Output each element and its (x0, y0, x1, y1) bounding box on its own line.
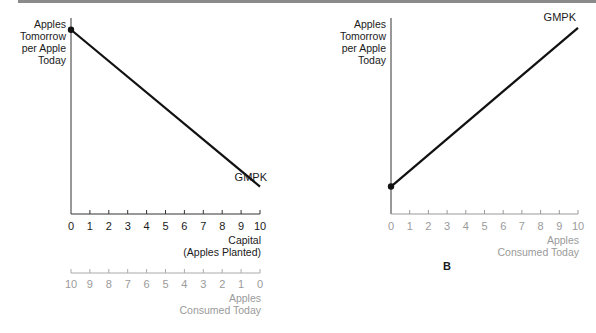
gmpk-label: GMPK (235, 171, 268, 183)
secondary-x-axis-label: Apples (229, 292, 261, 304)
secondary-x-tick-label: 7 (125, 278, 131, 290)
secondary-x-tick-label: 10 (65, 278, 77, 290)
y-axis-label: Tomorrow (340, 30, 387, 42)
y-axis-label: Apples (354, 18, 386, 30)
x-tick-label: 3 (444, 220, 450, 232)
x-tick-label: 1 (407, 220, 413, 232)
chart-panel-A: 012345678910ApplesTomorrowper AppleToday… (20, 18, 268, 316)
x-axis-label: Consumed Today (497, 246, 579, 258)
x-tick-label: 2 (425, 220, 431, 232)
x-tick-label: 1 (87, 220, 93, 232)
x-tick-label: 8 (538, 220, 544, 232)
x-tick-label: 9 (556, 220, 562, 232)
x-axis-label: Capital (228, 234, 261, 246)
gmpk-line (71, 30, 260, 187)
x-tick-label: 9 (238, 220, 244, 232)
x-tick-label: 7 (200, 220, 206, 232)
x-tick-label: 6 (500, 220, 506, 232)
x-tick-label: 2 (106, 220, 112, 232)
gmpk-label: GMPK (544, 11, 577, 23)
x-tick-label: 5 (162, 220, 168, 232)
y-axis-label: per Apple (22, 42, 67, 54)
y-axis-label: Today (38, 54, 67, 66)
x-tick-label: 4 (463, 220, 469, 232)
secondary-x-tick-label: 4 (181, 278, 187, 290)
secondary-x-tick-label: 8 (106, 278, 112, 290)
start-point-marker (388, 183, 394, 189)
x-axis-label: (Apples Planted) (183, 246, 261, 258)
x-tick-label: 0 (388, 220, 394, 232)
y-axis-label: per Apple (342, 42, 387, 54)
secondary-x-tick-label: 9 (87, 278, 93, 290)
x-tick-label: 10 (572, 220, 584, 232)
start-point-marker (68, 27, 74, 33)
y-axis-label: Apples (34, 18, 66, 30)
secondary-x-tick-label: 2 (219, 278, 225, 290)
panel-label: B (443, 260, 451, 272)
secondary-x-tick-label: 0 (257, 278, 263, 290)
x-tick-label: 10 (254, 220, 266, 232)
y-axis-label: Tomorrow (20, 30, 67, 42)
x-tick-label: 4 (144, 220, 150, 232)
figure: 012345678910ApplesTomorrowper AppleToday… (0, 0, 596, 333)
x-tick-label: 0 (68, 220, 74, 232)
x-axis-label: Apples (547, 234, 579, 246)
x-tick-label: 5 (481, 220, 487, 232)
x-tick-label: 3 (125, 220, 131, 232)
x-tick-label: 7 (519, 220, 525, 232)
secondary-x-tick-label: 1 (238, 278, 244, 290)
x-tick-label: 6 (181, 220, 187, 232)
x-tick-label: 8 (219, 220, 225, 232)
secondary-x-tick-label: 3 (200, 278, 206, 290)
secondary-x-tick-label: 5 (162, 278, 168, 290)
chart-panel-B: 012345678910ApplesTomorrowper AppleToday… (340, 11, 584, 272)
secondary-x-tick-label: 6 (144, 278, 150, 290)
gmpk-line (391, 28, 578, 187)
y-axis-label: Today (358, 54, 387, 66)
secondary-x-axis-label: Consumed Today (179, 304, 261, 316)
